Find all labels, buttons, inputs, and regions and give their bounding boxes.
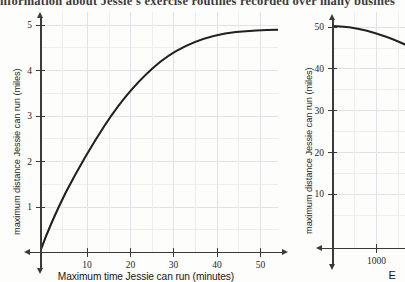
left-x-axis (30, 252, 282, 254)
right-y-axis (332, 20, 334, 264)
left-x-axis-arrow-right (282, 249, 288, 255)
right-y-tick (328, 194, 337, 195)
left-x-tick (173, 248, 174, 257)
left-plot-area (40, 12, 278, 252)
right-y-axis-arrow-down (329, 264, 335, 270)
left-x-tick (130, 248, 131, 257)
right-y-tick (328, 110, 337, 111)
left-x-ticklabel: 50 (249, 260, 273, 270)
left-curve (40, 12, 278, 252)
left-x-axis-label: Maximum time Jessie can run (minutes) (26, 271, 266, 282)
right-y-tick (328, 27, 337, 28)
right-graph: 10 20 30 40 50 1000 maximum distance Jes… (292, 12, 405, 282)
right-x-tick (376, 244, 377, 253)
left-y-tick (36, 70, 45, 71)
right-plot-area (332, 12, 405, 248)
left-graph: 1 2 3 4 5 10 20 30 40 50 maximum distanc… (0, 12, 290, 282)
left-y-tick (36, 161, 45, 162)
left-y-axis (40, 18, 42, 268)
right-x-axis-label: E (382, 269, 402, 281)
right-y-axis-arrow-up (329, 14, 335, 20)
left-y-axis-label: maximum distance Jessie can run (miles) (12, 68, 22, 235)
worksheet-page: nformation about Jessie's exercise routi… (0, 0, 405, 282)
left-y-axis-arrow-up (37, 12, 43, 18)
left-x-ticklabel: 20 (119, 260, 143, 270)
right-x-axis (322, 248, 405, 250)
right-y-tick (328, 152, 337, 153)
right-curve (332, 12, 405, 248)
right-x-axis-arrow-left (316, 245, 322, 251)
right-y-tick (328, 68, 337, 69)
left-x-tick (260, 248, 261, 257)
left-x-ticklabel: 40 (205, 260, 229, 270)
left-x-axis-arrow-left (24, 249, 30, 255)
left-x-ticklabel: 30 (162, 260, 186, 270)
left-x-tick (87, 248, 88, 257)
right-y-axis-label: maximum distance Jessie can run (miles) (304, 67, 314, 234)
left-y-tick (36, 116, 45, 117)
left-x-ticklabel: 10 (75, 260, 99, 270)
left-x-tick (217, 248, 218, 257)
right-x-ticklabel: 1000 (362, 256, 392, 266)
left-y-tick (36, 207, 45, 208)
left-y-tick (36, 25, 45, 26)
header-sentence: nformation about Jessie's exercise routi… (0, 0, 405, 9)
left-y-ticklabel: 5 (16, 20, 32, 30)
right-y-ticklabel: 50 (304, 22, 324, 32)
